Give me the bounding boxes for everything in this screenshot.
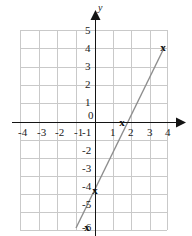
xtick-label: 4	[165, 127, 171, 138]
ytick-label: 4	[85, 43, 91, 54]
xtick-label: 3	[147, 127, 153, 138]
ytick-label: -1	[82, 127, 91, 138]
xtick-label: -2	[55, 127, 64, 138]
ytick-label: 5	[85, 25, 91, 36]
ytick-label: 1	[85, 97, 91, 108]
origin-label: 0	[88, 110, 94, 121]
data-point-marker: x	[160, 42, 166, 53]
ytick-label: -2	[82, 145, 91, 156]
ytick-label: 3	[85, 61, 91, 72]
ytick-label: -5	[82, 199, 91, 210]
xtick-label: 2	[128, 127, 134, 138]
xtick-label: -3	[37, 127, 46, 138]
ytick-label: 2	[85, 79, 91, 90]
data-point-marker: x	[84, 222, 90, 233]
ytick-label: -3	[82, 163, 91, 174]
coordinate-plane-figure: y -4 -3 -2 -1 1 2 3 4 5 4 3 2 1 0 -1 -2 …	[0, 0, 192, 236]
xtick-label: 1	[110, 127, 116, 138]
data-point-marker: x	[119, 117, 125, 128]
ytick-label: -4	[82, 181, 91, 192]
y-axis-label: y	[98, 3, 102, 13]
xtick-label: -4	[18, 127, 27, 138]
data-point-marker: x	[92, 185, 98, 196]
graph-canvas	[0, 0, 192, 236]
